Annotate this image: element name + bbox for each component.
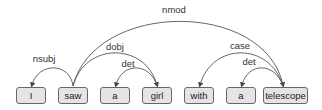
arc-det-1: [116, 68, 157, 86]
arc-label-det-2: det: [242, 56, 255, 67]
arc-label-nsubj: nsubj: [33, 53, 56, 64]
arc-label-det-1: det: [121, 58, 134, 69]
word-box-i: I: [16, 87, 46, 104]
arc-nsubj: [32, 68, 73, 86]
arc-label-dobj: dobj: [106, 41, 124, 52]
arc-label-nmod: nmod: [162, 4, 186, 15]
word-box-a-1: a: [100, 87, 130, 104]
word-box-girl: girl: [142, 87, 172, 104]
word-box-with: with: [184, 87, 214, 104]
arc-label-case: case: [230, 40, 250, 51]
word-box-a-2: a: [226, 87, 256, 104]
arc-det-2: [242, 68, 283, 86]
arc-nmod: [73, 21, 283, 86]
word-box-saw: saw: [58, 87, 88, 104]
word-box-telescope: telescope: [263, 87, 308, 104]
